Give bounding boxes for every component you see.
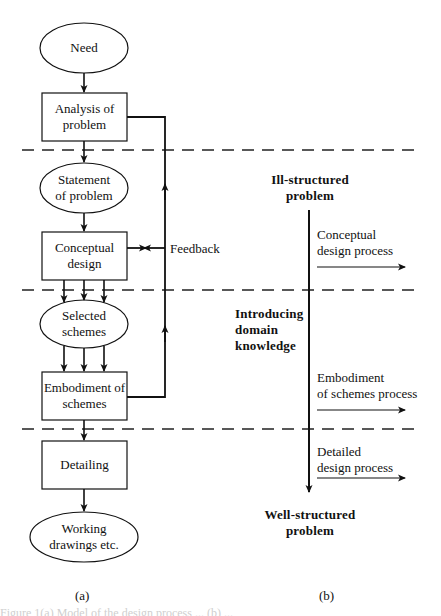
node-analysis-label: Analysis of problem xyxy=(42,101,127,133)
caption-b: (b) xyxy=(319,588,334,604)
embodiment-line-2: schemes xyxy=(38,396,131,412)
conceptual-line-2: design xyxy=(42,256,127,272)
detailed-process-line-2: design process xyxy=(317,460,393,476)
figure-caption-cutoff: Figure 1(a) Model of the design process … xyxy=(0,604,441,616)
selected-line-2: schemes xyxy=(40,324,128,340)
analysis-line-1: Analysis of xyxy=(42,101,127,117)
conceptual-process-line-1: Conceptual xyxy=(317,227,393,243)
need-text: Need xyxy=(70,40,97,55)
embodiment-line-1: Embodiment of xyxy=(38,380,131,396)
detailed-process-line-1: Detailed xyxy=(317,444,393,460)
conceptual-process-line-2: design process xyxy=(317,243,393,259)
node-embodiment-label: Embodiment of schemes xyxy=(38,380,131,412)
node-selected-label: Selected schemes xyxy=(40,308,128,340)
domain-line-2: domain xyxy=(235,322,303,338)
node-statement-label: Statement of problem xyxy=(40,172,128,204)
feedback-loop xyxy=(127,117,165,397)
ill-structured-line-2: problem xyxy=(250,188,370,204)
panel-a-arrows xyxy=(64,73,104,511)
embodiment-process-line-1: Embodiment xyxy=(317,370,417,386)
domain-line-1: Introducing xyxy=(235,306,303,322)
well-structured-line-2: problem xyxy=(250,523,370,539)
domain-knowledge-label: Introducing domain knowledge xyxy=(235,306,303,354)
embodiment-process-line-2: of schemes process xyxy=(317,386,417,402)
working-line-2: drawings etc. xyxy=(30,537,138,553)
well-structured-label: Well-structured problem xyxy=(250,507,370,539)
conceptual-process-label: Conceptual design process xyxy=(317,227,393,259)
ill-structured-label: Ill-structured problem xyxy=(250,172,370,204)
node-need-label: Need xyxy=(40,40,128,56)
node-working-label: Working drawings etc. xyxy=(30,521,138,553)
domain-line-3: knowledge xyxy=(235,338,303,354)
working-line-1: Working xyxy=(30,521,138,537)
statement-line-1: Statement xyxy=(40,172,128,188)
detailing-text: Detailing xyxy=(42,457,127,473)
well-structured-line-1: Well-structured xyxy=(250,507,370,523)
selected-line-1: Selected xyxy=(40,308,128,324)
detailed-process-label: Detailed design process xyxy=(317,444,393,476)
embodiment-process-label: Embodiment of schemes process xyxy=(317,370,417,402)
feedback-label: Feedback xyxy=(170,241,220,257)
statement-line-2: of problem xyxy=(40,188,128,204)
node-detailing-label: Detailing xyxy=(42,457,127,473)
ill-structured-line-1: Ill-structured xyxy=(250,172,370,188)
node-conceptual-label: Conceptual design xyxy=(42,240,127,272)
analysis-line-2: problem xyxy=(42,117,127,133)
caption-a: (a) xyxy=(75,588,89,604)
conceptual-line-1: Conceptual xyxy=(42,240,127,256)
